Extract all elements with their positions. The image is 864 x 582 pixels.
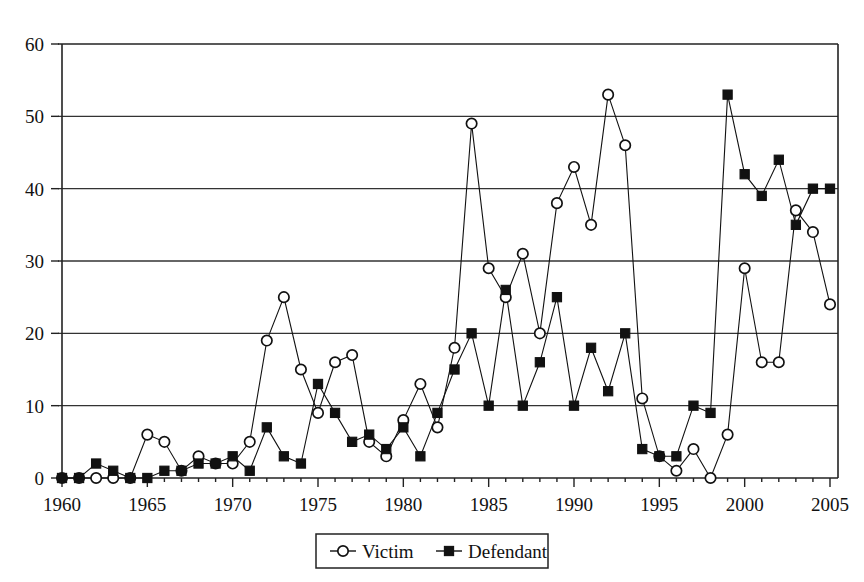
data-point-victim-2001 bbox=[757, 357, 767, 367]
data-point-defendant-1977 bbox=[348, 437, 357, 446]
y-tick-label-50: 50 bbox=[25, 106, 44, 127]
y-axis-tick-labels: 0102030405060 bbox=[25, 34, 59, 489]
data-point-victim-1988 bbox=[535, 328, 545, 338]
y-tick-label-10: 10 bbox=[25, 396, 44, 417]
data-point-victim-1985 bbox=[483, 263, 493, 273]
x-tick-label-1985: 1985 bbox=[470, 494, 508, 515]
data-point-defendant-1999 bbox=[723, 90, 732, 99]
x-tick-label-2005: 2005 bbox=[811, 494, 849, 515]
data-point-defendant-1991 bbox=[586, 343, 595, 352]
x-axis-tick-labels: 1960196519701975198019851990199520002005 bbox=[43, 494, 849, 515]
chart-legend: VictimDefendant bbox=[316, 534, 548, 568]
data-point-defendant-1985 bbox=[484, 401, 493, 410]
data-point-defendant-1973 bbox=[279, 452, 288, 461]
data-point-defendant-2004 bbox=[808, 184, 817, 193]
data-point-defendant-2002 bbox=[774, 155, 783, 164]
legend-marker-victim bbox=[338, 546, 348, 556]
x-tick-label-2000: 2000 bbox=[726, 494, 764, 515]
data-point-defendant-1980 bbox=[399, 423, 408, 432]
data-point-defendant-1963 bbox=[109, 466, 118, 475]
data-point-victim-1996 bbox=[671, 466, 681, 476]
data-point-defendant-1970 bbox=[228, 452, 237, 461]
data-point-victim-1999 bbox=[722, 429, 732, 439]
y-tick-label-0: 0 bbox=[35, 468, 45, 489]
x-tick-label-1995: 1995 bbox=[640, 494, 678, 515]
data-point-defendant-1996 bbox=[672, 452, 681, 461]
data-point-victim-1989 bbox=[552, 198, 562, 208]
data-point-defendant-1992 bbox=[604, 387, 613, 396]
data-point-victim-1992 bbox=[603, 89, 613, 99]
data-point-victim-1984 bbox=[466, 118, 476, 128]
data-point-defendant-1983 bbox=[450, 365, 459, 374]
series-defendant-markers bbox=[57, 90, 834, 483]
data-point-defendant-1971 bbox=[245, 466, 254, 475]
data-point-defendant-1990 bbox=[569, 401, 578, 410]
legend-label-defendant: Defendant bbox=[468, 541, 548, 562]
data-point-defendant-1988 bbox=[535, 358, 544, 367]
data-point-victim-1962 bbox=[91, 473, 101, 483]
data-point-defendant-1982 bbox=[433, 408, 442, 417]
x-tick-label-1990: 1990 bbox=[555, 494, 593, 515]
series-victim-line bbox=[62, 95, 830, 478]
data-point-defendant-1987 bbox=[518, 401, 527, 410]
data-point-victim-2003 bbox=[791, 205, 801, 215]
data-point-victim-1973 bbox=[279, 292, 289, 302]
data-point-defendant-1997 bbox=[689, 401, 698, 410]
data-point-defendant-1967 bbox=[177, 466, 186, 475]
legend-marker-defendant bbox=[444, 546, 453, 555]
y-tick-label-20: 20 bbox=[25, 323, 44, 344]
data-point-victim-1965 bbox=[142, 429, 152, 439]
y-tick-label-30: 30 bbox=[25, 251, 44, 272]
x-tick-label-1980: 1980 bbox=[384, 494, 422, 515]
x-tick-label-1975: 1975 bbox=[299, 494, 337, 515]
data-point-defendant-1960 bbox=[57, 473, 66, 482]
line-chart: 0102030405060 19601965197019751980198519… bbox=[0, 0, 864, 582]
data-point-victim-2005 bbox=[825, 299, 835, 309]
series-line-victim bbox=[62, 95, 830, 478]
x-tick-label-1965: 1965 bbox=[128, 494, 166, 515]
data-point-victim-1993 bbox=[620, 140, 630, 150]
data-point-victim-1987 bbox=[518, 249, 528, 259]
data-point-victim-1974 bbox=[296, 364, 306, 374]
data-point-defendant-1979 bbox=[382, 444, 391, 453]
data-point-defendant-1975 bbox=[313, 379, 322, 388]
data-point-defendant-1981 bbox=[416, 452, 425, 461]
data-point-victim-1975 bbox=[313, 408, 323, 418]
data-point-defendant-1978 bbox=[365, 430, 374, 439]
data-point-victim-1994 bbox=[637, 393, 647, 403]
data-point-victim-1977 bbox=[347, 350, 357, 360]
data-point-victim-1997 bbox=[688, 444, 698, 454]
data-point-victim-2004 bbox=[808, 227, 818, 237]
data-point-defendant-1968 bbox=[194, 459, 203, 468]
data-point-victim-2002 bbox=[774, 357, 784, 367]
data-point-defendant-1969 bbox=[211, 459, 220, 468]
y-tick-label-60: 60 bbox=[25, 34, 44, 55]
data-point-victim-1982 bbox=[432, 422, 442, 432]
data-point-victim-1981 bbox=[415, 379, 425, 389]
legend-label-victim: Victim bbox=[362, 541, 414, 562]
data-point-defendant-1998 bbox=[706, 408, 715, 417]
data-point-victim-1998 bbox=[705, 473, 715, 483]
series-line-defendant bbox=[62, 95, 830, 478]
x-tick-label-1960: 1960 bbox=[43, 494, 81, 515]
data-point-defendant-2005 bbox=[825, 184, 834, 193]
series-defendant-line bbox=[62, 95, 830, 478]
data-point-defendant-1974 bbox=[296, 459, 305, 468]
data-point-defendant-1966 bbox=[160, 466, 169, 475]
data-point-defendant-1964 bbox=[126, 473, 135, 482]
data-point-defendant-1976 bbox=[330, 408, 339, 417]
series-victim-markers bbox=[57, 89, 835, 483]
data-point-defendant-1994 bbox=[638, 444, 647, 453]
data-point-defendant-2001 bbox=[757, 191, 766, 200]
data-point-victim-1983 bbox=[449, 343, 459, 353]
data-point-victim-1966 bbox=[159, 437, 169, 447]
data-point-defendant-1986 bbox=[501, 285, 510, 294]
chart-container: 0102030405060 19601965197019751980198519… bbox=[0, 0, 864, 582]
y-tick-label-40: 40 bbox=[25, 179, 44, 200]
data-point-victim-1972 bbox=[262, 335, 272, 345]
data-point-victim-1990 bbox=[569, 162, 579, 172]
data-point-defendant-2000 bbox=[740, 170, 749, 179]
data-point-defendant-1965 bbox=[143, 473, 152, 482]
grid-lines bbox=[58, 44, 838, 478]
data-point-defendant-1972 bbox=[262, 423, 271, 432]
